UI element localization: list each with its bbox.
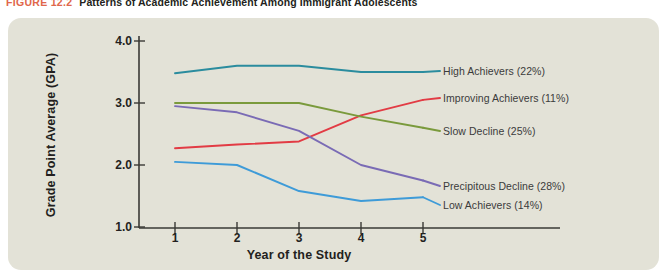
figure-number: FIGURE 12.2	[6, 0, 72, 8]
figure-caption: FIGURE 12.2Patterns of Academic Achievem…	[6, 0, 418, 8]
figure-caption-text: Patterns of Academic Achievement Among I…	[79, 0, 417, 8]
figure-container: FIGURE 12.2Patterns of Academic Achievem…	[0, 0, 667, 275]
chart-panel	[8, 18, 659, 270]
